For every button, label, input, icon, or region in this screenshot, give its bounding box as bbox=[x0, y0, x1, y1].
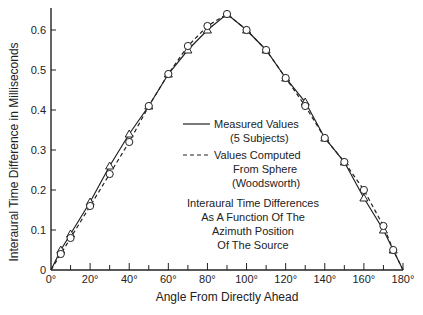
x-tick-label: 40° bbox=[121, 273, 138, 285]
y-tick-label: 0.6 bbox=[31, 24, 46, 36]
x-tick-label: 140° bbox=[313, 273, 336, 285]
x-tick-label: 180° bbox=[392, 273, 415, 285]
circle-marker bbox=[380, 222, 387, 229]
circle-marker bbox=[204, 22, 211, 29]
circle-marker bbox=[67, 234, 74, 241]
circle-marker bbox=[57, 250, 64, 257]
legend-measured-sublabel: (5 Subjects) bbox=[230, 132, 289, 144]
x-tick-label: 60° bbox=[160, 273, 177, 285]
circle-marker bbox=[360, 186, 367, 193]
circle-marker bbox=[223, 10, 230, 17]
chart: 00.10.20.30.40.50.60°20°40°60°80°100°120… bbox=[0, 0, 423, 315]
circle-marker bbox=[341, 158, 348, 165]
triangle-marker bbox=[360, 194, 368, 201]
legend-computed-label: Values Computed bbox=[214, 149, 301, 161]
x-tick-label: 80° bbox=[199, 273, 216, 285]
y-tick-label: 0.2 bbox=[31, 184, 46, 196]
y-tick-label: 0.5 bbox=[31, 64, 46, 76]
circle-marker bbox=[184, 42, 191, 49]
circle-marker bbox=[321, 134, 328, 141]
legend-computed-sublabel: From Sphere bbox=[233, 163, 297, 175]
circle-marker bbox=[282, 74, 289, 81]
x-tick-label: 0° bbox=[46, 273, 57, 285]
circle-marker bbox=[126, 138, 133, 145]
y-axis-title: Interaural Time Difference in Millisecon… bbox=[7, 42, 21, 261]
circle-marker bbox=[106, 170, 113, 177]
annotation-line: Azimuth Position bbox=[212, 225, 294, 237]
triangle-marker bbox=[125, 130, 133, 137]
circle-marker bbox=[165, 70, 172, 77]
x-axis-title: Angle From Directly Ahead bbox=[156, 290, 299, 304]
x-tick-label: 160° bbox=[353, 273, 376, 285]
y-tick-label: 0.1 bbox=[31, 224, 46, 236]
annotation-line: Of The Source bbox=[217, 239, 288, 251]
circle-marker bbox=[390, 246, 397, 253]
circle-marker bbox=[243, 26, 250, 33]
y-tick-label: 0.3 bbox=[31, 144, 46, 156]
x-tick-label: 120° bbox=[274, 273, 297, 285]
circle-marker bbox=[263, 46, 270, 53]
triangle-marker bbox=[106, 162, 114, 169]
legend-computed-sublabel2: (Woodsworth) bbox=[232, 177, 300, 189]
circle-marker bbox=[87, 202, 94, 209]
legend-measured-label: Measured Values bbox=[214, 118, 299, 130]
circle-marker bbox=[145, 102, 152, 109]
y-tick-label: 0.4 bbox=[31, 104, 46, 116]
annotation-line: As A Function Of The bbox=[201, 211, 305, 223]
circle-marker bbox=[302, 102, 309, 109]
legend: Measured Values(5 Subjects)Values Comput… bbox=[183, 118, 319, 251]
x-tick-label: 100° bbox=[235, 273, 258, 285]
annotation-line: Interaural Time Differences bbox=[187, 197, 319, 209]
x-tick-label: 20° bbox=[82, 273, 99, 285]
